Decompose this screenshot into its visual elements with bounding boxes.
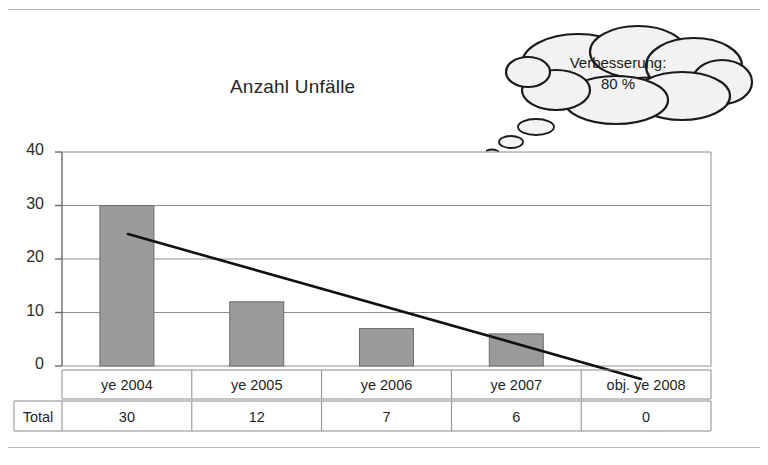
data-table-cell: 30 (62, 402, 192, 432)
y-axis-tick-label: 40 (4, 141, 44, 159)
y-axis-tick-label: 30 (4, 195, 44, 213)
y-axis-tick-label: 20 (4, 248, 44, 266)
data-table-row-label: Total (14, 402, 62, 432)
bar (230, 302, 284, 366)
category-label: ye 2005 (192, 371, 322, 399)
data-table-cell: 6 (451, 402, 581, 432)
category-label: ye 2004 (62, 371, 192, 399)
category-label: ye 2007 (451, 371, 581, 399)
data-table-cell: 0 (581, 402, 711, 432)
data-table-cell: 12 (192, 402, 322, 432)
bar (360, 329, 414, 366)
chart-figure: Anzahl Unfälle Verbesserung: 80 % (0, 0, 768, 465)
data-table-cell: 7 (322, 402, 452, 432)
category-label: ye 2006 (322, 371, 452, 399)
category-label: obj. ye 2008 (581, 371, 711, 399)
y-axis-ticks (55, 152, 62, 366)
y-axis-tick-label: 10 (4, 302, 44, 320)
y-axis-tick-label: 0 (4, 355, 44, 373)
bar (100, 206, 154, 367)
